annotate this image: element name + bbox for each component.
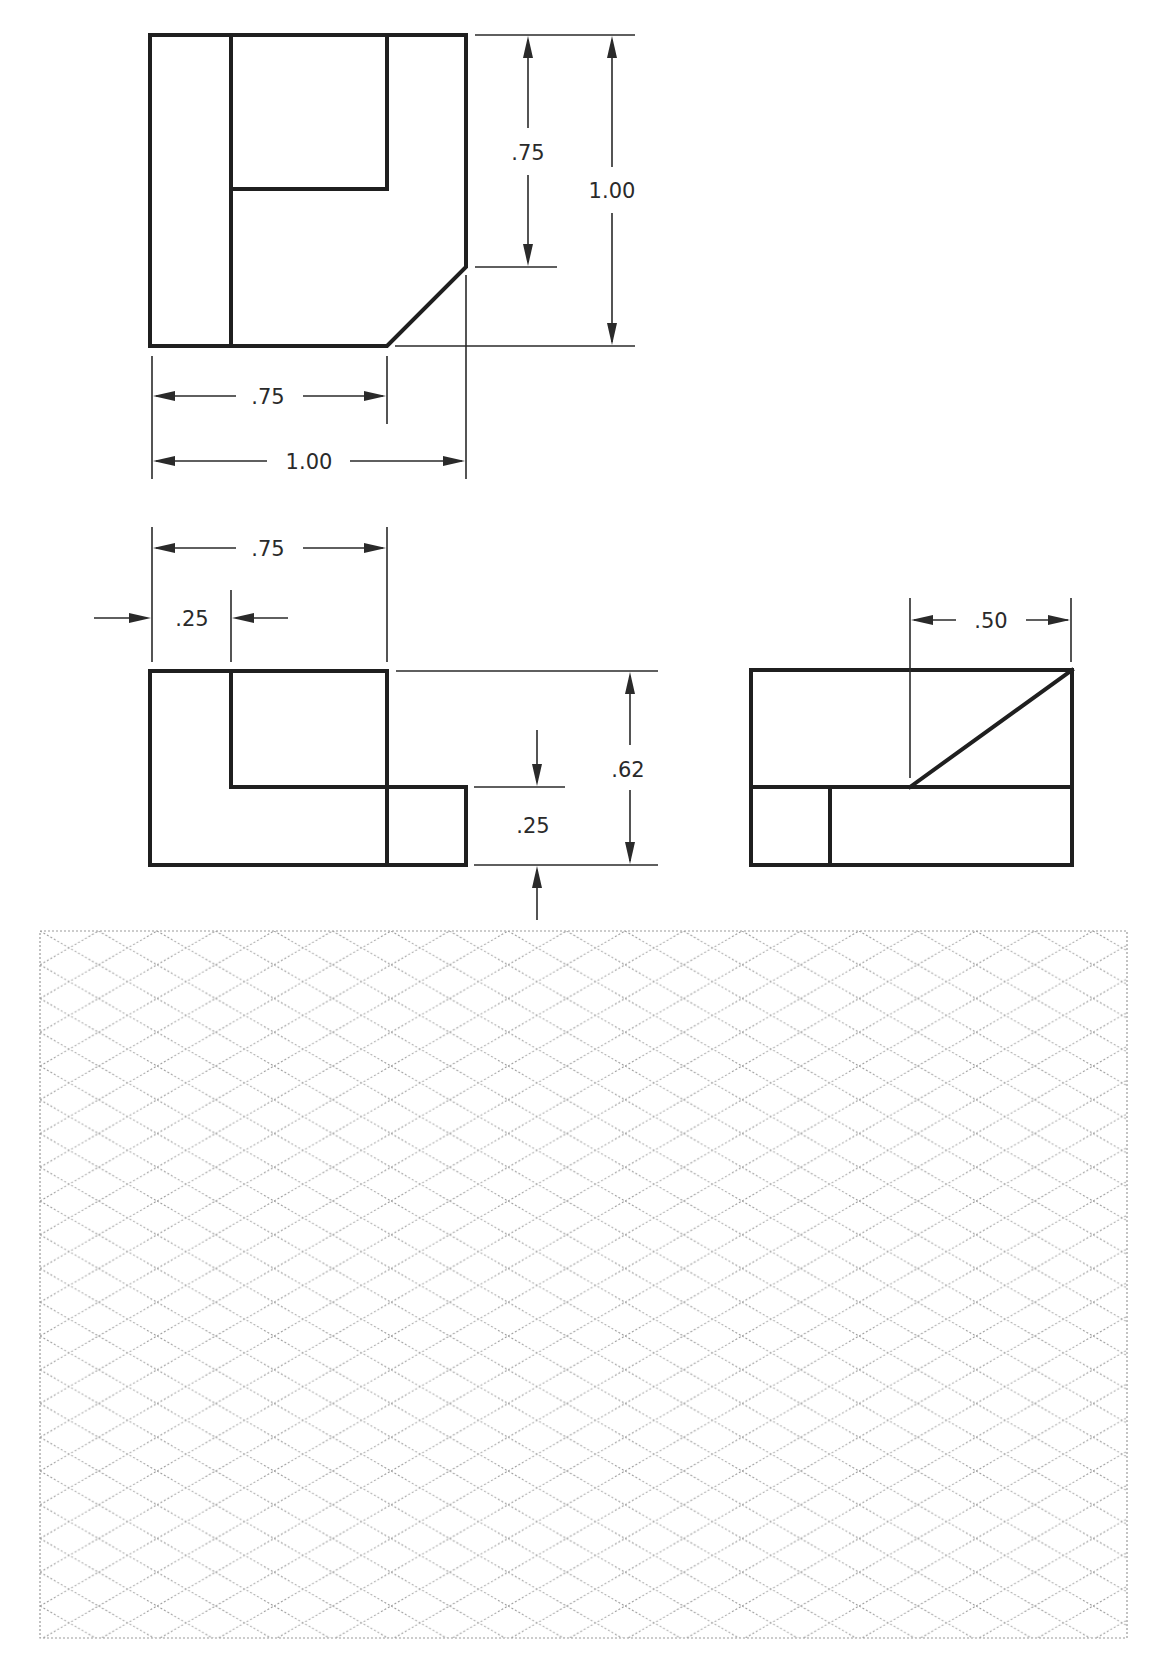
- right-side-view: .50: [751, 598, 1072, 865]
- front-view: .75 .25 .25 .62: [94, 527, 658, 920]
- arrowhead-icon: [532, 764, 542, 786]
- arrowhead-icon: [153, 456, 175, 466]
- dim-right-slope-width: .50: [974, 609, 1007, 633]
- arrowhead-icon: [625, 842, 635, 864]
- dim-front-step-height: .25: [516, 814, 549, 838]
- arrowhead-icon: [625, 672, 635, 694]
- arrowhead-icon: [607, 36, 617, 58]
- top-view-notch: [231, 35, 387, 189]
- arrowhead-icon: [911, 615, 933, 625]
- orthographic-drawing: .75 1.00 .75 1.00: [0, 0, 1156, 1680]
- arrowhead-icon: [364, 391, 386, 401]
- arrowhead-icon: [443, 456, 465, 466]
- arrowhead-icon: [153, 543, 175, 553]
- arrowhead-icon: [232, 613, 254, 623]
- dim-front-upper-width: .75: [251, 537, 284, 561]
- front-view-inner-step: [231, 671, 387, 865]
- arrowhead-icon: [523, 36, 533, 58]
- arrowhead-icon: [607, 323, 617, 345]
- right-view-slope: [910, 670, 1072, 787]
- dim-top-overall-depth: 1.00: [589, 179, 636, 203]
- arrowhead-icon: [523, 244, 533, 266]
- arrowhead-icon: [1048, 615, 1070, 625]
- dim-top-overall-width: 1.00: [286, 450, 333, 474]
- right-view-outline: [751, 670, 1072, 865]
- top-view: .75 1.00 .75 1.00: [150, 35, 635, 479]
- dim-front-inset: .25: [175, 607, 208, 631]
- isometric-sketch-grid[interactable]: [40, 931, 1127, 1638]
- front-view-outline: [150, 671, 466, 865]
- dim-front-overall-height: .62: [611, 758, 644, 782]
- dim-top-chamfer-depth: .75: [511, 141, 544, 165]
- dim-top-step-width: .75: [251, 385, 284, 409]
- arrowhead-icon: [129, 613, 151, 623]
- isometric-grid-pattern[interactable]: [40, 931, 1127, 1638]
- arrowhead-icon: [364, 543, 386, 553]
- arrowhead-icon: [153, 391, 175, 401]
- arrowhead-icon: [532, 866, 542, 888]
